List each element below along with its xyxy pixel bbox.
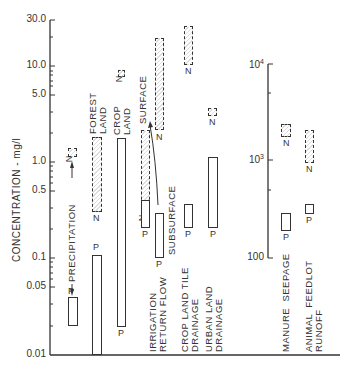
n-label: N: [114, 76, 124, 83]
tick-label: 0.05: [2, 280, 46, 291]
tick-label: 30.0: [2, 13, 46, 24]
n-label: N: [283, 138, 290, 148]
tick-label: 0.1: [2, 251, 46, 262]
bar-manure-n: [281, 124, 291, 137]
right-tick-label: 100: [240, 251, 264, 262]
p-label: P: [283, 232, 289, 242]
bar-irrigation-surface-n: [141, 130, 150, 210]
p-label: P: [142, 229, 148, 239]
bar-irrigation-subsurface-n: [155, 38, 164, 130]
n-label: N: [306, 164, 313, 174]
bar-urban-p: [208, 157, 218, 228]
category-label-urban: URBAN LAND DRAINAGE: [204, 286, 224, 352]
p-label: P: [68, 286, 74, 296]
annotation-surface: SURFACE: [138, 76, 148, 124]
p-label: P: [156, 259, 162, 269]
bar-irrigation-subsurface-p: [155, 213, 164, 258]
bar-crop-p: [117, 138, 126, 327]
category-label-manure: MANURE SEEPAGE: [281, 253, 291, 352]
right-tick-label: 103: [240, 153, 264, 165]
n-label: N: [93, 213, 100, 223]
p-label: P: [118, 328, 124, 338]
p-label: P: [185, 229, 191, 239]
precipitation-annotation: PRECIPITATION: [67, 204, 77, 282]
right-tick-label: 104: [240, 58, 264, 70]
bar-tile-p: [184, 204, 193, 228]
n-label: N: [185, 66, 192, 76]
annotation-subsurface: SUBSURFACE: [167, 186, 177, 255]
tick-label: 5.0: [2, 88, 46, 99]
category-label-crop: CROP LAND: [112, 106, 132, 135]
y-axis-label: CONCENTRATION - mg/l: [12, 138, 22, 262]
tick-label: 10.0: [2, 59, 46, 70]
bar-tile-n: [184, 26, 193, 65]
p-label: P: [93, 242, 99, 252]
bar-precipitation-p: [68, 297, 78, 326]
tick-label: 1.0: [2, 155, 46, 166]
bar-irrigation-surface-p: [141, 200, 150, 228]
p-label: P: [306, 215, 312, 225]
n-label: N: [209, 117, 216, 127]
tick-label: 0.5: [2, 184, 46, 195]
bar-forest-p: [92, 255, 102, 355]
tick-label: 0.01: [2, 348, 46, 359]
bar-urban-n: [208, 108, 217, 116]
n-label: N: [64, 156, 74, 163]
bar-forest-n: [92, 137, 102, 212]
category-label-tile: CROP LAND TILE DRAINAGE: [180, 267, 200, 352]
category-label-forest: FOREST LAND: [88, 92, 108, 134]
p-label: P: [210, 229, 216, 239]
bar-feedlot-p: [305, 204, 314, 214]
bar-manure-p: [281, 213, 291, 231]
category-label-feedlot: ANIMAL FEEDLOT RUNOFF: [304, 260, 324, 352]
bar-feedlot-n: [305, 130, 314, 163]
n-label: N: [156, 132, 163, 142]
category-label-irrigation: IRRIGATION RETURN FLOW: [148, 277, 168, 352]
